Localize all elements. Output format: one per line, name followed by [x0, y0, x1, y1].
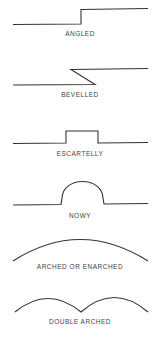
arched-line [13, 240, 148, 262]
label-nowy: NOWY [0, 212, 153, 220]
nowy-line [13, 182, 148, 206]
label-double-arched: DOUBLE ARCHED [0, 318, 153, 326]
angled-line [13, 9, 148, 25]
bevelled-line [13, 69, 148, 86]
heraldic-lines-diagram [0, 0, 153, 350]
label-angled: ANGLED [0, 30, 153, 38]
escartelly-line [13, 131, 148, 144]
double-arched-line [15, 298, 148, 313]
label-bevelled: BEVELLED [0, 91, 153, 99]
label-arched: ARCHED OR ENARCHED [0, 263, 153, 271]
label-escartelly: ESCARTELLY [0, 150, 153, 158]
